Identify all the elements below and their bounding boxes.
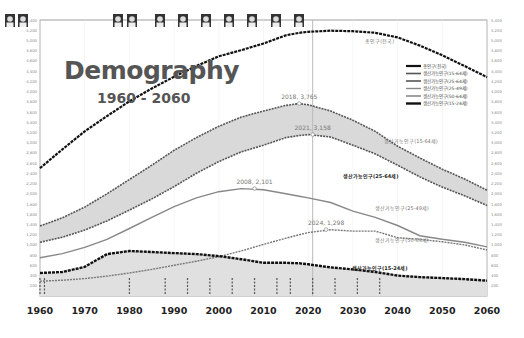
- y-tick-label: 4,200: [26, 79, 37, 84]
- y-tick-label: 3,400: [491, 120, 502, 125]
- y-tick-label: 2,400: [26, 171, 37, 176]
- y-tick-label: 2,200: [491, 181, 502, 186]
- x-tick-label: 1960: [27, 305, 54, 316]
- chart-annotation: 생산가능인구(25-64세): [343, 173, 399, 180]
- y-tick-label: 800: [30, 253, 38, 258]
- chart-annotation: 2018, 3,765: [281, 93, 317, 100]
- y-tick-label: 2,600: [26, 161, 37, 166]
- y-tick-label: 1,200: [491, 232, 502, 237]
- y-tick-label: 4,200: [491, 79, 502, 84]
- chart-annotation: 2024, 1,298: [308, 219, 344, 226]
- demography-chart: 2018, 3,7652021, 3,1582008, 2,1012024, 1…: [0, 0, 524, 338]
- x-tick-label: 2050: [429, 305, 456, 316]
- y-tick-label: 4,600: [491, 58, 502, 63]
- chart-annotation: 생산가능인구(50-64세): [375, 237, 428, 244]
- y-tick-label: 2,200: [26, 181, 37, 186]
- y-tick-label: 1,600: [491, 212, 502, 217]
- y-tick-label: 1,000: [26, 242, 37, 247]
- y-tick-label: 800: [491, 253, 499, 258]
- x-tick-label: 1990: [161, 305, 188, 316]
- portrait-icon: [294, 14, 304, 27]
- portrait-icon: [247, 14, 257, 27]
- y-tick-label: 3,000: [491, 140, 502, 145]
- y-tick-label: 1,200: [26, 232, 37, 237]
- portrait-icon: [271, 14, 281, 27]
- y-tick-label: 3,200: [491, 130, 502, 135]
- portrait-icon: [113, 14, 123, 27]
- y-tick-label: 1,800: [491, 202, 502, 207]
- x-tick-label: 2000: [206, 305, 233, 316]
- y-tick-label: 1,600: [26, 212, 37, 217]
- y-tick-label: 5,200: [491, 28, 502, 33]
- y-tick-label: 2,400: [491, 171, 502, 176]
- y-tick-label: 3,200: [26, 130, 37, 135]
- y-tick-label: 3,600: [491, 110, 502, 115]
- chart-annotation: 생산가능인구(15-64세): [384, 138, 437, 145]
- svg-text:생산가능인구(25-64세): 생산가능인구(25-64세): [423, 78, 468, 85]
- y-tick-label: 200: [30, 283, 38, 288]
- y-tick-label: 5,000: [26, 38, 37, 43]
- x-tick-label: 1980: [116, 305, 143, 316]
- y-tick-label: 4,400: [491, 69, 502, 74]
- y-tick-label: 3,800: [491, 99, 502, 104]
- y-tick-label: 3,600: [26, 110, 37, 115]
- portrait-icon: [5, 14, 15, 27]
- portrait-icon: [178, 14, 188, 27]
- y-tick-label: 1,000: [491, 242, 502, 247]
- y-tick-label: 2,000: [491, 191, 502, 196]
- portrait-icon: [18, 14, 28, 27]
- y-tick-label: 2,000: [26, 191, 37, 196]
- y-tick-label: 3,400: [26, 120, 37, 125]
- chart-annotation: 2021, 3,158: [295, 124, 331, 131]
- chart-annotation: 생산가능인구(15-24세): [352, 265, 408, 272]
- x-tick-label: 2060: [474, 305, 501, 316]
- x-tick-label: 2040: [384, 305, 411, 316]
- y-tick-label: 3,000: [26, 140, 37, 145]
- x-tick-label: 2030: [340, 305, 367, 316]
- svg-text:생산가능인구(25-49세): 생산가능인구(25-49세): [423, 85, 468, 92]
- y-tick-label: 4,800: [26, 48, 37, 53]
- y-tick-label: 4,000: [26, 89, 37, 94]
- y-tick-label: 5,000: [491, 38, 502, 43]
- y-tick-label: 4,000: [491, 89, 502, 94]
- y-tick-label: 2,800: [491, 150, 502, 155]
- y-tick-label: 200: [491, 283, 499, 288]
- y-tick-label: 4,600: [26, 58, 37, 63]
- svg-text:생산가능인구(15-64세): 생산가능인구(15-64세): [423, 70, 468, 77]
- x-tick-label: 2010: [250, 305, 277, 316]
- y-tick-label: 400: [491, 273, 499, 278]
- chart-annotation: 2008, 2,101: [236, 178, 272, 185]
- portrait-icon: [224, 14, 234, 27]
- chart-title: Demography: [64, 56, 239, 85]
- portrait-icon: [201, 14, 211, 27]
- y-tick-label: 1,800: [26, 202, 37, 207]
- y-tick-label: 3,800: [26, 99, 37, 104]
- x-tick-label: 2020: [295, 305, 322, 316]
- y-tick-label: 2,800: [26, 150, 37, 155]
- y-tick-label: 600: [491, 263, 499, 268]
- y-tick-label: 5,400: [491, 18, 502, 23]
- x-tick-label: 1970: [71, 305, 98, 316]
- svg-text:생산가능인구(50-64세): 생산가능인구(50-64세): [423, 93, 468, 100]
- y-tick-label: 4,400: [26, 69, 37, 74]
- y-tick-label: 4,800: [491, 48, 502, 53]
- portrait-icon: [127, 14, 137, 27]
- svg-text:총인구(전국): 총인구(전국): [423, 63, 447, 70]
- y-tick-label: 600: [30, 263, 38, 268]
- chart-annotation: 총인구(전국): [365, 38, 394, 45]
- y-tick-label: 1,400: [26, 222, 37, 227]
- y-tick-label: 2,600: [491, 161, 502, 166]
- y-tick-label: 400: [30, 273, 38, 278]
- chart-annotation: 생산가능인구(25-49세): [375, 205, 428, 212]
- y-tick-label: 5,200: [26, 28, 37, 33]
- y-tick-label: 1,400: [491, 222, 502, 227]
- chart-subtitle: 1960 - 2060: [97, 90, 191, 106]
- portrait-icon: [155, 14, 165, 27]
- svg-text:생산가능인구(15-24세): 생산가능인구(15-24세): [423, 100, 468, 107]
